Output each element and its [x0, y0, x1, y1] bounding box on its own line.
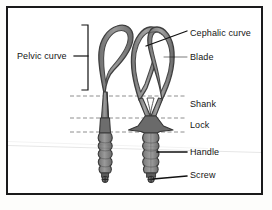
left-screw [102, 173, 109, 182]
label-pelvic-curve: Pelvic curve [17, 51, 67, 61]
label-blade: Blade [190, 52, 214, 62]
guide-lines [70, 96, 186, 132]
label-screw: Screw [190, 170, 216, 180]
right-screw [147, 173, 156, 183]
pelvic-curve-bracket [74, 25, 88, 90]
left-forceps-side-view [98, 25, 133, 182]
leader-screw [153, 176, 187, 179]
label-handle: Handle [190, 147, 219, 157]
label-lock: Lock [190, 120, 209, 130]
figure-canvas: Pelvic curve Cephalic curve Blade Shank … [0, 0, 272, 210]
right-forceps-front-view [129, 27, 175, 183]
label-cephalic-curve: Cephalic curve [190, 28, 251, 38]
label-shank: Shank [190, 99, 216, 109]
